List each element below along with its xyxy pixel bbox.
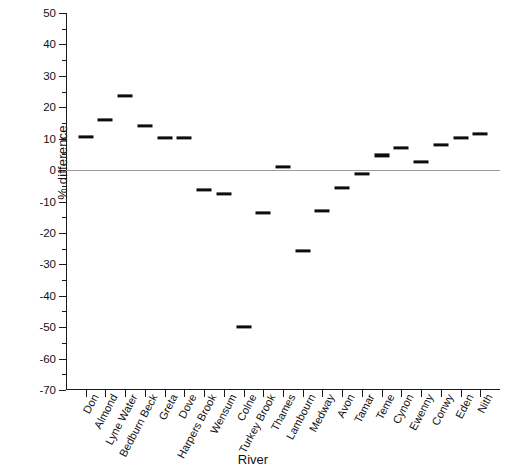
y-axis-tick-minor — [62, 343, 66, 344]
y-axis-tick-label: -20 — [39, 227, 56, 239]
y-axis-tick-minor — [62, 311, 66, 312]
y-axis-tick-major — [59, 139, 66, 140]
data-marker[interactable] — [157, 136, 172, 139]
data-marker[interactable] — [394, 146, 409, 149]
y-axis-tick-minor — [62, 217, 66, 218]
y-axis-tick-label: 50 — [43, 7, 56, 19]
y-axis-tick-label: 0 — [50, 164, 56, 176]
y-axis-line — [66, 13, 67, 390]
x-axis-tick-label: Eden — [452, 392, 475, 420]
data-marker[interactable] — [315, 209, 330, 212]
data-marker[interactable] — [354, 173, 369, 176]
x-axis-title: River — [0, 452, 506, 467]
y-axis-tick-major — [59, 44, 66, 45]
data-marker[interactable] — [374, 154, 389, 157]
y-axis-tick-label: -30 — [39, 258, 56, 270]
y-axis-tick-label: -10 — [39, 196, 56, 208]
x-axis-tick-label: Nith — [475, 392, 495, 415]
chart-root: % difference -70-60-50-40-30-20-10010203… — [0, 0, 506, 474]
plot-area: -70-60-50-40-30-20-1001020304050 — [66, 13, 500, 390]
data-marker[interactable] — [335, 186, 350, 189]
x-axis-tick-labels: DonAlmondLyne WaterBedburn BeckGretaDove… — [66, 392, 500, 454]
y-axis-tick-major — [59, 296, 66, 297]
y-axis-tick-minor — [62, 280, 66, 281]
y-axis-tick-label: 20 — [43, 101, 56, 113]
data-marker[interactable] — [197, 188, 212, 191]
y-axis-tick-major — [59, 264, 66, 265]
y-axis-tick-label: 10 — [43, 133, 56, 145]
data-marker[interactable] — [118, 95, 133, 98]
data-marker[interactable] — [295, 249, 310, 252]
data-marker[interactable] — [137, 125, 152, 128]
y-axis-tick-label: -60 — [39, 353, 56, 365]
y-axis-tick-minor — [62, 249, 66, 250]
y-axis-tick-minor — [62, 60, 66, 61]
data-marker[interactable] — [276, 165, 291, 168]
y-axis-tick-label: -50 — [39, 321, 56, 333]
data-marker[interactable] — [216, 193, 231, 196]
zero-reference-line — [66, 170, 500, 171]
data-marker[interactable] — [236, 326, 251, 329]
y-axis-tick-minor — [62, 374, 66, 375]
y-axis-tick-minor — [62, 92, 66, 93]
data-marker[interactable] — [473, 132, 488, 135]
data-marker[interactable] — [453, 136, 468, 139]
y-axis-tick-minor — [62, 154, 66, 155]
data-marker[interactable] — [177, 136, 192, 139]
data-marker[interactable] — [98, 118, 113, 121]
y-axis-tick-major — [59, 202, 66, 203]
y-axis-tick-label: 30 — [43, 70, 56, 82]
y-axis-tick-major — [59, 13, 66, 14]
y-axis-tick-major — [59, 390, 66, 391]
y-axis-tick-minor — [62, 123, 66, 124]
data-marker[interactable] — [414, 160, 429, 163]
y-axis-tick-major — [59, 107, 66, 108]
data-marker[interactable] — [256, 212, 271, 215]
y-axis-tick-minor — [62, 186, 66, 187]
y-axis-tick-major — [59, 76, 66, 77]
y-axis-tick-major — [59, 359, 66, 360]
y-axis-tick-major — [59, 233, 66, 234]
y-axis-tick-major — [59, 327, 66, 328]
y-axis-tick-label: -40 — [39, 290, 56, 302]
y-axis-tick-major — [59, 170, 66, 171]
y-axis-tick-minor — [62, 29, 66, 30]
y-axis-tick-label: 40 — [43, 38, 56, 50]
y-axis-tick-label: -70 — [39, 384, 56, 396]
data-marker[interactable] — [78, 136, 93, 139]
data-marker[interactable] — [433, 143, 448, 146]
